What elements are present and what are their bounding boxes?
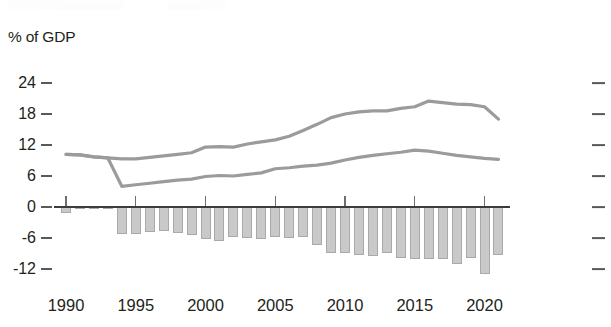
x-tick-2010: 2010 <box>327 296 364 315</box>
x-tick-2020: 2020 <box>466 296 503 315</box>
x-tick-2000: 2000 <box>187 296 224 315</box>
x-tick-2005: 2005 <box>257 296 294 315</box>
lower-line <box>66 150 498 186</box>
line-series <box>0 0 611 327</box>
x-tick-1990: 1990 <box>48 296 85 315</box>
chart-root: % of GDP 24181260-6-12 19901995200020052… <box>0 0 611 327</box>
upper-line <box>66 101 498 159</box>
x-tick-2015: 2015 <box>396 296 433 315</box>
x-tick-1995: 1995 <box>117 296 154 315</box>
